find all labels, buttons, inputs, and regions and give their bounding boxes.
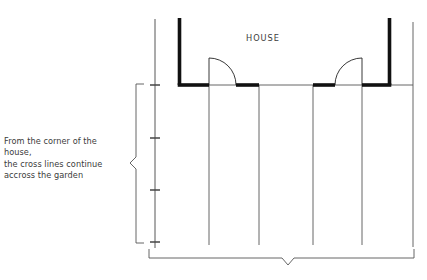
house-label: HOUSE [246,33,280,43]
right-door-arc [335,58,362,85]
garden-cross-lines [209,22,413,247]
door-arcs [209,58,362,85]
diagram-canvas: HOUSE From the corner of the house, the … [0,0,427,280]
annotation-text: From the corner of the house, the cross … [4,136,122,182]
vertical-ruler [150,19,160,248]
left-door-arc [209,58,236,85]
horizontal-dimension-bracket [149,249,414,265]
house-walls [178,18,392,85]
vertical-dimension-bracket [130,84,144,243]
